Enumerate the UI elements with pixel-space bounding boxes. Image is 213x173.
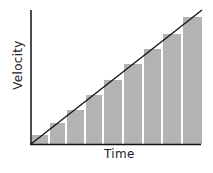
bar-5 [104,80,122,144]
bar-4 [86,95,102,144]
bar-9 [183,17,202,144]
bars [32,17,202,144]
bar-3 [67,110,84,144]
x-axis-label: Time [104,147,135,161]
bar-6 [124,64,142,144]
bar-8 [163,34,181,144]
y-axis-label: Velocity [11,35,25,95]
bar-2 [50,123,65,144]
bar-7 [144,49,161,144]
